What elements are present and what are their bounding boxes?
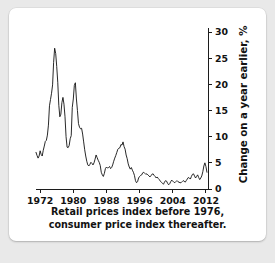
y-axis-title: Change on a year earlier, %	[238, 26, 249, 184]
y-tick-label: 25	[215, 53, 228, 64]
x-tick-label: 2012	[193, 195, 219, 206]
x-tick-label: 2004	[160, 195, 187, 206]
x-tick-label: 1972	[27, 195, 53, 206]
y-tick-label: 10	[215, 131, 229, 142]
y-tick-label: 0	[215, 183, 222, 194]
y-tick-label: 5	[215, 157, 222, 168]
caption-line-1: Retail prices index before 1976,	[15, 206, 260, 219]
x-tick-label: 1996	[127, 195, 154, 206]
chart-card: 197219801988199620042012051015202530Chan…	[9, 8, 266, 241]
y-tick-label: 30	[215, 26, 229, 37]
screenshot-root: 197219801988199620042012051015202530Chan…	[0, 0, 275, 263]
x-tick-label: 1980	[60, 195, 87, 206]
y-tick-label: 15	[215, 105, 228, 116]
inflation-series-line	[36, 48, 207, 185]
caption-line-2: consumer price index thereafter.	[15, 219, 260, 232]
inflation-chart-figure: 197219801988199620042012051015202530Chan…	[9, 8, 266, 241]
x-tick-label: 1988	[93, 195, 119, 206]
chart-caption: Retail prices index before 1976, consume…	[15, 206, 260, 231]
y-tick-label: 20	[215, 79, 229, 90]
